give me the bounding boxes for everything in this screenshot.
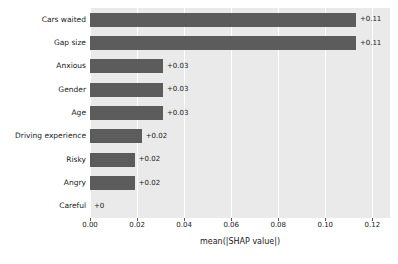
bars-layer: +0.11+0.11+0.03+0.03+0.03+0.02+0.02+0.02… [90, 8, 390, 218]
bar-row[interactable]: +0.02 [90, 176, 390, 190]
y-axis-tick-label: Gap size [0, 39, 86, 47]
plot-area: +0.11+0.11+0.03+0.03+0.03+0.02+0.02+0.02… [90, 8, 390, 218]
y-axis-tick-label: Anxious [0, 62, 86, 70]
bar-row[interactable]: +0.03 [90, 106, 390, 120]
bar-value-label: +0.11 [360, 16, 381, 23]
y-axis-tick-label: Careful [0, 202, 86, 210]
y-axis-tick-label: Driving experience [0, 132, 86, 140]
y-axis-tick-label: Angry [0, 179, 86, 187]
bar-value-label: +0.03 [167, 86, 188, 93]
x-axis-ticks: 0.000.020.040.060.080.100.12 [90, 218, 390, 232]
bar-value-label: +0.02 [139, 180, 160, 187]
bar[interactable] [90, 36, 356, 50]
x-axis-tick-label: 0.02 [129, 222, 145, 229]
bar-value-label: +0 [94, 203, 104, 210]
bar-value-label: +0.11 [360, 40, 381, 47]
y-axis-tick-label: Cars waited [0, 16, 86, 24]
x-axis-tick-label: 0.12 [365, 222, 381, 229]
x-axis-title: mean(|SHAP value|) [90, 238, 390, 246]
shap-bar-chart-figure: Cars waitedGap sizeAnxiousGenderAgeDrivi… [0, 0, 398, 264]
bar-row[interactable]: +0.02 [90, 129, 390, 143]
bar[interactable] [90, 83, 163, 97]
y-axis-tick-label: Risky [0, 156, 86, 164]
x-axis-tick-label: 0.10 [317, 222, 333, 229]
bar-row[interactable]: +0 [90, 199, 390, 213]
bar-value-label: +0.03 [167, 110, 188, 117]
bar[interactable] [90, 13, 356, 27]
x-axis-tick-label: 0.04 [176, 222, 192, 229]
y-axis-tick-label: Age [0, 109, 86, 117]
bar-row[interactable]: +0.03 [90, 83, 390, 97]
bar-value-label: +0.02 [139, 156, 160, 163]
bar[interactable] [90, 59, 163, 73]
bar-row[interactable]: +0.02 [90, 153, 390, 167]
y-axis-tick-label: Gender [0, 86, 86, 94]
bar-value-label: +0.03 [167, 63, 188, 70]
x-axis-tick-label: 0.00 [82, 222, 98, 229]
x-axis-tick-label: 0.08 [270, 222, 286, 229]
bar[interactable] [90, 129, 142, 143]
bar[interactable] [90, 176, 135, 190]
bar-value-label: +0.02 [146, 133, 167, 140]
bar[interactable] [90, 106, 163, 120]
x-axis-tick-label: 0.06 [223, 222, 239, 229]
bar-row[interactable]: +0.03 [90, 59, 390, 73]
bar[interactable] [90, 153, 135, 167]
bar-row[interactable]: +0.11 [90, 13, 390, 27]
bar-row[interactable]: +0.11 [90, 36, 390, 50]
y-axis-tick-labels: Cars waitedGap sizeAnxiousGenderAgeDrivi… [0, 8, 86, 218]
